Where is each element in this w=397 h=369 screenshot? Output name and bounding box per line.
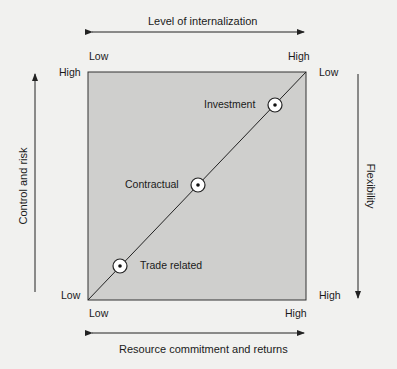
diagram-graphics bbox=[0, 0, 397, 369]
point-trade-related-icon bbox=[113, 259, 127, 273]
point-contractual-icon bbox=[191, 178, 205, 192]
right-axis-title: Flexibility bbox=[365, 163, 377, 208]
top-axis-low: Low bbox=[89, 50, 108, 62]
label-contractual: Contractual bbox=[125, 178, 179, 190]
left-axis-high: High bbox=[59, 66, 81, 78]
label-investment: Investment bbox=[204, 98, 255, 110]
right-axis-low: Low bbox=[319, 66, 338, 78]
top-axis-title: Level of internalization bbox=[148, 15, 257, 27]
right-axis-high: High bbox=[319, 289, 341, 301]
bottom-axis-title: Resource commitment and returns bbox=[119, 343, 288, 355]
bottom-axis-low: Low bbox=[89, 307, 108, 319]
left-axis-title: Control and risk bbox=[17, 147, 29, 224]
point-investment-icon bbox=[268, 98, 282, 112]
top-axis-high: High bbox=[288, 50, 310, 62]
label-trade-related: Trade related bbox=[140, 259, 202, 271]
bottom-axis-high: High bbox=[285, 307, 307, 319]
left-axis-low: Low bbox=[61, 289, 80, 301]
